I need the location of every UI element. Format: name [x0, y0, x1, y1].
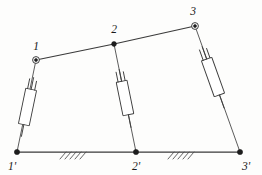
damper-right-piston-left-tine [199, 50, 203, 60]
damper-middle-piston-left-tine [116, 72, 118, 82]
damper-left [16, 77, 39, 138]
damper-right-rod-lower [219, 95, 224, 108]
label-joint-1: 1 [33, 40, 39, 52]
joint-ground-2prime [133, 149, 138, 154]
damper-middle-rod-upper [119, 70, 121, 82]
link-1-1prime-group [16, 60, 39, 152]
hatch-group-left [60, 152, 86, 159]
coupler-segment-1-2 [36, 44, 114, 60]
damper-middle-piston-right-tine [123, 72, 125, 81]
label-joint-2prime: 2' [132, 160, 141, 172]
damper-left-piston-left-tine [28, 79, 30, 89]
label-joint-2: 2 [111, 23, 117, 35]
mechanism-svg-canvas: 1 2 3 1' 2' 3' [0, 0, 262, 175]
link-3-3prime-group [195, 26, 240, 152]
damper-right [197, 45, 229, 110]
coupler-segment-2-3 [114, 26, 195, 44]
damper-middle-rod-lower [128, 115, 131, 128]
hatch-group-right [168, 152, 194, 159]
joint-top-3-center [194, 25, 197, 28]
damper-middle-cylinder [116, 80, 134, 116]
label-joint-1prime: 1' [8, 160, 17, 172]
damper-left-cylinder [18, 88, 36, 125]
damper-right-piston-right-tine [207, 48, 210, 57]
link-2-2prime-group [114, 44, 137, 152]
damper-right-rod-upper [202, 47, 206, 59]
ground-bar-group [17, 152, 240, 159]
mechanism-diagram: 1 2 3 1' 2' 3' [0, 0, 262, 175]
joint-ground-1prime [14, 149, 19, 154]
damper-left-piston-right-tine [35, 81, 37, 90]
joint-top-1-center [35, 59, 38, 62]
damper-middle [114, 68, 137, 128]
joint-ground-3prime [237, 149, 242, 154]
label-joint-3prime: 3' [241, 160, 251, 172]
joint-top-2 [112, 42, 117, 47]
label-joint-3: 3 [189, 5, 196, 17]
damper-right-cylinder [201, 57, 224, 96]
